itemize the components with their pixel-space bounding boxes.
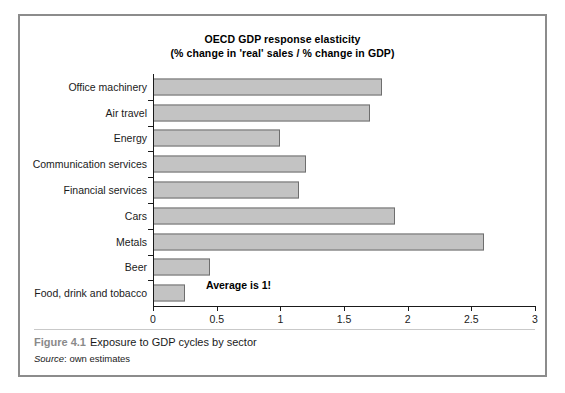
figure-caption: Figure 4.1Exposure to GDP cycles by sect…	[34, 336, 257, 348]
bar-office-machinery	[153, 78, 382, 95]
bar-beer	[153, 259, 210, 276]
y-axis-tick	[148, 151, 153, 152]
y-axis-tick	[148, 280, 153, 281]
figure-caption-text: Exposure to GDP cycles by sector	[90, 336, 257, 348]
y-axis-tick	[148, 177, 153, 178]
bar-row: Cars	[153, 203, 535, 229]
y-axis-tick	[148, 126, 153, 127]
category-label: Financial services	[64, 184, 147, 196]
x-axis-tick	[344, 306, 345, 311]
category-label: Air travel	[106, 107, 147, 119]
x-axis-label: 2	[405, 313, 411, 325]
x-axis-tick	[153, 306, 154, 311]
bar-food-drink-and-tobacco	[153, 285, 185, 302]
figure-source: Source: own estimates	[34, 353, 130, 364]
bar-row: Energy	[153, 126, 535, 152]
category-label: Food, drink and tobacco	[34, 287, 147, 299]
y-axis-tick	[148, 100, 153, 101]
figure-frame: OECD GDP response elasticity (% change i…	[18, 14, 547, 377]
x-axis-label: 0.5	[209, 313, 224, 325]
y-axis-tick	[148, 255, 153, 256]
x-axis-tick	[217, 306, 218, 311]
x-axis-label: 2.5	[464, 313, 479, 325]
x-axis-tick	[471, 306, 472, 311]
bar-row: Metals	[153, 229, 535, 255]
bar-metals	[153, 233, 484, 250]
source-label: Source	[34, 353, 64, 364]
y-axis-line	[153, 74, 154, 306]
category-label: Beer	[125, 261, 147, 273]
y-axis-tick	[148, 203, 153, 204]
category-label: Energy	[114, 132, 147, 144]
chart-title-line1: OECD GDP response elasticity	[204, 33, 360, 45]
bar-communication-services	[153, 156, 306, 173]
category-label: Cars	[125, 210, 147, 222]
chart-annotation: Average is 1!	[206, 279, 271, 291]
caption-divider	[34, 329, 535, 330]
category-label: Communication services	[33, 158, 147, 170]
bar-row: Financial services	[153, 177, 535, 203]
chart-title: OECD GDP response elasticity (% change i…	[20, 32, 545, 60]
plot-area: Office machinery Air travel Energy Commu…	[153, 74, 535, 306]
category-label: Metals	[116, 236, 147, 248]
category-label: Office machinery	[68, 81, 147, 93]
bar-row: Air travel	[153, 100, 535, 126]
x-axis-label: 3	[532, 313, 538, 325]
x-axis-tick	[535, 306, 536, 311]
bar-energy	[153, 130, 280, 147]
x-axis-label: 1	[277, 313, 283, 325]
x-axis-tick	[408, 306, 409, 311]
x-axis-label: 0	[150, 313, 156, 325]
bar-financial-services	[153, 182, 299, 199]
bar-row: Communication services	[153, 151, 535, 177]
bar-row: Beer	[153, 255, 535, 281]
chart-title-line2: (% change in 'real' sales / % change in …	[20, 46, 545, 60]
bar-cars	[153, 207, 395, 224]
bar-row: Office machinery	[153, 74, 535, 100]
y-axis-tick	[148, 229, 153, 230]
x-axis-tick	[280, 306, 281, 311]
figure-number: Figure 4.1	[34, 336, 86, 348]
x-axis-label: 1.5	[337, 313, 352, 325]
bar-air-travel	[153, 104, 370, 121]
source-value: : own estimates	[64, 353, 130, 364]
